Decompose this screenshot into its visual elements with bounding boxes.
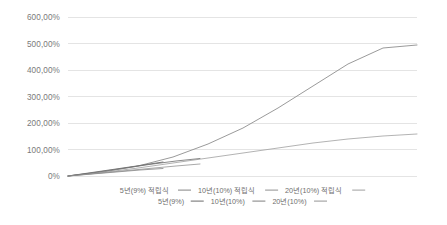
legend-item-label[interactable]: 5년(9%) 적립식 bbox=[120, 186, 169, 195]
y-axis-tick-label: 100,00% bbox=[27, 146, 60, 155]
y-axis-tick-label: 600,00% bbox=[27, 13, 60, 22]
line-chart: 600,00%500,00%400,00%300,00%200,00%100,0… bbox=[0, 0, 447, 225]
y-axis-tick-label: 500,00% bbox=[27, 40, 60, 49]
y-axis-tick-label: 0% bbox=[48, 172, 60, 181]
legend-item-label[interactable]: 10년(10%) bbox=[211, 197, 245, 206]
y-axis-tick-label: 300,00% bbox=[27, 93, 60, 102]
legend-item-label[interactable]: 20년(10%) 적립식 bbox=[285, 186, 342, 195]
y-axis-tick-label: 400,00% bbox=[27, 66, 60, 75]
legend-item-label[interactable]: 10년(10%) 적립식 bbox=[198, 186, 255, 195]
y-axis-tick-label: 200,00% bbox=[27, 119, 60, 128]
legend-item-label[interactable]: 20년(10%) bbox=[272, 197, 306, 206]
legend-item-label[interactable]: 5년(9%) bbox=[158, 197, 184, 206]
chart-container: 600,00%500,00%400,00%300,00%200,00%100,0… bbox=[0, 0, 447, 225]
